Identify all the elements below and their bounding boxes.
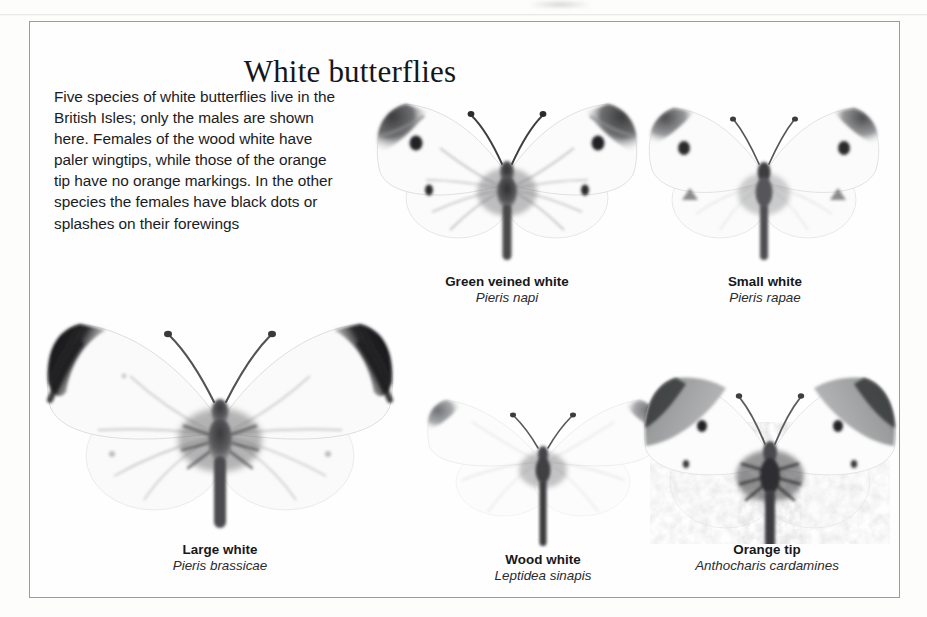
caption-small-white: Small white Pieris rapae [728,274,802,306]
scan-edge-artifact [0,14,927,16]
caption-wood-white: Wood white Leptidea sinapis [495,552,592,584]
scientific-name-small-white: Pieris rapae [728,290,802,306]
butterfly-illustration-orange-tip [630,364,910,544]
butterfly-illustration-small-white [638,82,890,272]
common-name-small-white: Small white [728,274,802,290]
specimen-plate-green-veined-white [366,80,648,276]
scientific-name-orange-tip: Anthocharis cardamines [695,558,839,574]
butterfly-illustration-large-white [36,304,404,540]
scan-smudge-artifact [530,0,590,9]
common-name-large-white: Large white [173,542,268,558]
specimen-plate-large-white [36,304,404,540]
scientific-name-green-veined-white: Pieris napi [445,290,569,306]
common-name-wood-white: Wood white [495,552,592,568]
scientific-name-large-white: Pieris brassicae [173,558,268,574]
caption-orange-tip: Orange tip Anthocharis cardamines [695,542,839,574]
common-name-green-veined-white: Green veined white [445,274,569,290]
butterfly-illustration-green-veined-white [366,80,648,276]
caption-large-white: Large white Pieris brassicae [173,542,268,574]
caption-green-veined-white: Green veined white Pieris napi [445,274,569,306]
scientific-name-wood-white: Leptidea sinapis [495,568,592,584]
page-frame: White butterflies Five species of white … [29,21,900,598]
specimen-plate-orange-tip [630,364,910,544]
intro-paragraph: Five species of white butterflies live i… [54,86,342,234]
common-name-orange-tip: Orange tip [695,542,839,558]
specimen-plate-small-white [638,82,890,272]
